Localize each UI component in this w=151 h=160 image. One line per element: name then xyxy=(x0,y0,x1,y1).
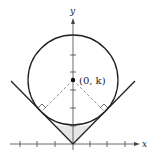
radius-left-dashed xyxy=(41,80,73,112)
right-angle-marker-right xyxy=(100,104,108,108)
tangent-line-right xyxy=(73,81,135,144)
diagram-svg: (0, k) y x xyxy=(0,0,151,160)
y-axis-label: y xyxy=(69,6,76,16)
center-point xyxy=(71,78,75,82)
right-angle-marker-left xyxy=(38,104,46,108)
tangent-line-left xyxy=(11,81,73,144)
diagram-figure: (0, k) y x xyxy=(0,0,151,160)
center-label: (0, k) xyxy=(79,75,106,86)
y-axis-arrow-icon xyxy=(71,18,75,24)
x-axis-label: x xyxy=(142,139,147,149)
x-axis-arrow-icon xyxy=(134,142,140,146)
